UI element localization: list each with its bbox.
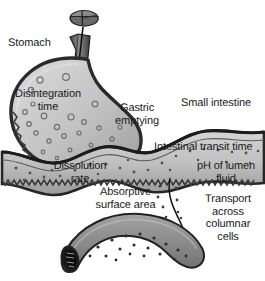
label-absorptive-surface-area: Absorptive surface area [83,186,168,211]
columnar-cell-tube-shape [59,214,204,274]
gi-absorption-diagram: Stomach Disintegration time Gastric empt… [0,0,265,281]
label-dissolution-rate: Dissolution rate [45,160,115,185]
label-ph-of-lumen-fluid: pH of lumen fluid [193,160,259,185]
label-stomach: Stomach [8,37,51,50]
tablet-icon [70,11,98,27]
label-transport-across-columnar-cells: Transport across columnar cells [196,193,260,243]
label-intestinal-transit-time: Intestinal transit time [154,141,253,154]
label-gastric-emptying: Gastric emptying [108,102,166,127]
label-disintegration-time: Disintegration time [5,88,91,113]
label-small-intestine: Small intestine [181,97,251,110]
